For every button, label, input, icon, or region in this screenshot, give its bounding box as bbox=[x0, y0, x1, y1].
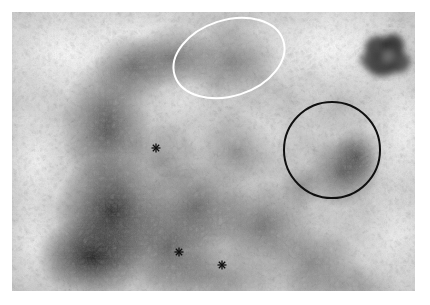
micrograph-canvas bbox=[12, 12, 415, 291]
asterisk-marker-3 bbox=[218, 261, 227, 270]
asterisk-marker-2 bbox=[175, 248, 184, 257]
micrograph-image bbox=[12, 12, 415, 291]
asterisk-marker-1 bbox=[152, 144, 161, 153]
figure-page: white-ellipse-annotation black-circle-an… bbox=[0, 0, 430, 305]
micrograph-grain-layer bbox=[12, 12, 415, 291]
